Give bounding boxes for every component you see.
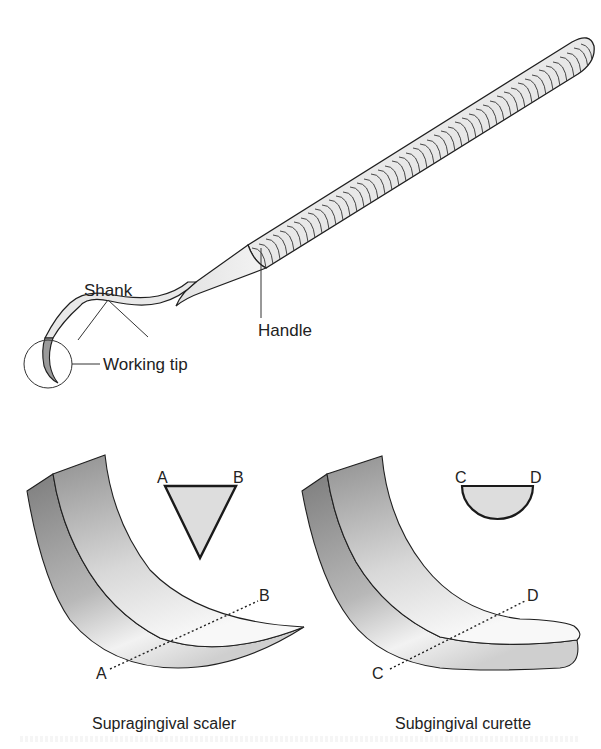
scan-artifact-strip bbox=[20, 736, 580, 742]
scaler-caption: Supragingival scaler bbox=[92, 715, 237, 732]
curette-caption: Subgingival curette bbox=[395, 715, 531, 732]
scaler-section-label-b: B bbox=[259, 587, 270, 604]
scaler-cross-section-label-b: B bbox=[233, 469, 244, 486]
curette-blade-illustration: C D C D Subgingival curette bbox=[302, 456, 580, 732]
dental-instrument: Shank Handle Working tip bbox=[24, 38, 594, 388]
curette-cross-section-label-d: D bbox=[530, 469, 542, 486]
diagram-canvas: Shank Handle Working tip A B A B Supragi… bbox=[0, 0, 601, 749]
scaler-cross-section-triangle bbox=[165, 486, 236, 558]
instrument-working-tip bbox=[43, 338, 58, 383]
curette-cross-section-half-circle bbox=[462, 486, 533, 519]
instrument-handle bbox=[248, 38, 594, 268]
scaler-section-label-a: A bbox=[96, 665, 107, 682]
instrument-taper bbox=[176, 245, 266, 306]
curette-section-label-c: C bbox=[372, 665, 384, 682]
curette-cross-section-label-c: C bbox=[455, 469, 467, 486]
handle-label: Handle bbox=[258, 321, 312, 340]
scaler-blade-illustration: A B A B Supragingival scaler bbox=[27, 455, 304, 732]
shank-label: Shank bbox=[84, 281, 133, 300]
scaler-cross-section-label-a: A bbox=[157, 469, 168, 486]
working-tip-label: Working tip bbox=[103, 355, 188, 374]
shank-callout-line bbox=[78, 300, 148, 340]
curette-section-label-d: D bbox=[527, 587, 539, 604]
